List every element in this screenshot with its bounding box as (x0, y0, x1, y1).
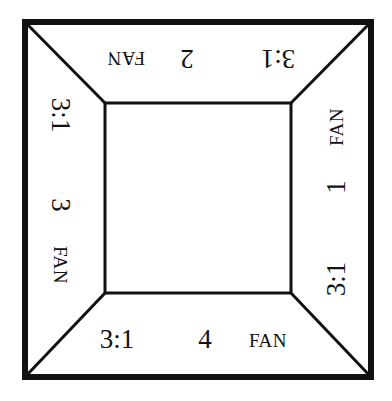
diagonal-bottom-right (291, 293, 371, 377)
panel-right-ratio: 3:1 (321, 262, 351, 297)
diagonal-top-left (25, 22, 105, 103)
panel-bottom: 3:1 4 FAN (100, 324, 287, 354)
fan-layout-diagram: 3:1 2 FAN 3:1 1 FAN 3:1 4 FAN 3:1 3 FAN (0, 0, 392, 401)
panel-right-number: 1 (321, 180, 351, 194)
panel-top-number: 2 (180, 44, 194, 74)
panel-left: 3:1 3 FAN (46, 98, 76, 284)
panel-right: 3:1 1 FAN (321, 108, 351, 296)
diagonal-top-right (291, 22, 371, 103)
panel-left-number: 3 (46, 198, 76, 212)
panel-bottom-number: 4 (198, 324, 212, 354)
panel-right-fan-label: FAN (326, 108, 347, 146)
panel-left-fan-label: FAN (50, 246, 71, 284)
inner-square (105, 103, 291, 293)
panel-top-fan-label: FAN (107, 48, 145, 69)
panel-left-ratio: 3:1 (46, 98, 76, 133)
diagonal-bottom-left (25, 293, 105, 377)
panel-bottom-fan-label: FAN (249, 330, 287, 351)
panel-bottom-ratio: 3:1 (100, 324, 135, 354)
panel-top: 3:1 2 FAN (107, 44, 295, 74)
panel-top-ratio: 3:1 (261, 44, 296, 74)
